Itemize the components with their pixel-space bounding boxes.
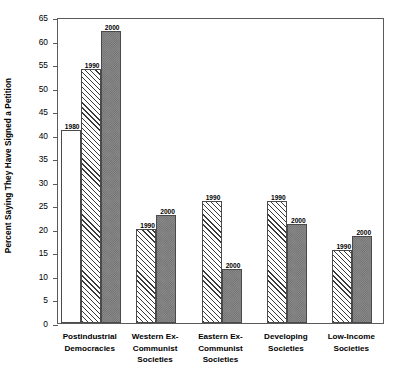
bar: 2000 — [287, 224, 307, 323]
x-axis-category-label: DevelopingSocieties — [253, 331, 318, 354]
x-axis-category-line: Western Ex- — [122, 331, 187, 343]
x-axis-category-line: Societies — [188, 354, 253, 366]
x-axis-category-line: Communist — [122, 343, 187, 355]
bar: 2000 — [352, 236, 372, 323]
bar-series-label: 1980 — [65, 123, 80, 130]
bar: 1990 — [202, 201, 222, 323]
y-axis-tick-label: 55 — [39, 60, 48, 71]
x-axis-category-line: Societies — [319, 343, 384, 355]
y-axis-tick-mark — [53, 113, 58, 114]
x-axis-category-line: Societies — [122, 354, 187, 366]
y-axis-tick-label: 0 — [43, 319, 48, 330]
bar: 1990 — [332, 250, 352, 323]
bar: 1990 — [136, 229, 156, 323]
bar-series-label: 1990 — [140, 222, 155, 229]
y-axis-tick-mark — [53, 137, 58, 138]
y-axis-title: Percent Saying They Have Signed a Petiti… — [0, 0, 18, 330]
bar-series-label: 2000 — [291, 217, 306, 224]
y-axis-tick-mark — [53, 207, 58, 208]
y-axis-tick-mark — [53, 43, 58, 44]
y-axis-tick-mark — [53, 278, 58, 279]
bar: 1990 — [267, 201, 287, 323]
x-axis-category-line: Democracies — [57, 343, 122, 355]
y-axis-tick-label: 5 — [43, 295, 48, 306]
y-axis-tick-label: 45 — [39, 107, 48, 118]
y-axis-tick-mark — [53, 301, 58, 302]
x-axis-category-label: Western Ex-CommunistSocieties — [122, 331, 187, 366]
bar-series-label: 2000 — [105, 24, 120, 31]
y-axis-tick-mark — [53, 325, 58, 326]
bar-chart: Percent Saying They Have Signed a Petiti… — [0, 0, 397, 388]
bar: 1990 — [81, 69, 101, 323]
plot-area: 05101520253035404550556065 1980199020001… — [57, 18, 384, 324]
x-axis-category-line: Communist — [188, 343, 253, 355]
y-axis-tick-label: 25 — [39, 201, 48, 212]
bar: 1980 — [61, 130, 81, 323]
x-axis-category-label: PostindustrialDemocracies — [57, 331, 122, 354]
bar: 2000 — [156, 215, 176, 323]
y-axis-tick-mark — [53, 66, 58, 67]
y-axis-tick-label: 10 — [39, 272, 48, 283]
bar-series-label: 1990 — [85, 62, 100, 69]
y-axis-tick-mark — [53, 184, 58, 185]
y-axis-title-text: Percent Saying They Have Signed a Petiti… — [5, 77, 14, 252]
y-axis-tick-label: 15 — [39, 248, 48, 259]
y-axis-tick-mark — [53, 90, 58, 91]
bar-series-label: 1990 — [206, 194, 221, 201]
y-axis-tick-mark — [53, 160, 58, 161]
bar-series-label: 1990 — [336, 243, 351, 250]
y-axis-tick-label: 60 — [39, 37, 48, 48]
x-axis-category-line: Postindustrial — [57, 331, 122, 343]
y-axis-tick-mark — [53, 254, 58, 255]
bar-series-label: 2000 — [160, 208, 175, 215]
bar: 2000 — [101, 31, 121, 323]
x-axis-category-label: Eastern Ex-CommunistSocieties — [188, 331, 253, 366]
y-axis-tick-label: 50 — [39, 84, 48, 95]
y-axis-tick-label: 20 — [39, 225, 48, 236]
x-axis-category-label: Low-IncomeSocieties — [319, 331, 384, 354]
bar: 2000 — [222, 269, 242, 323]
y-axis-tick-label: 40 — [39, 131, 48, 142]
bar-series-label: 1990 — [271, 194, 286, 201]
x-axis-category-line: Developing — [253, 331, 318, 343]
y-axis-tick-label: 35 — [39, 154, 48, 165]
y-axis-tick-mark — [53, 231, 58, 232]
y-axis-tick-label: 30 — [39, 178, 48, 189]
y-axis-tick-label: 65 — [39, 13, 48, 24]
bar-series-label: 2000 — [226, 262, 241, 269]
x-axis-category-line: Eastern Ex- — [188, 331, 253, 343]
y-axis-tick-mark — [53, 19, 58, 20]
bar-series-label: 2000 — [356, 229, 371, 236]
x-axis-category-line: Low-Income — [319, 331, 384, 343]
x-axis-category-line: Societies — [253, 343, 318, 355]
